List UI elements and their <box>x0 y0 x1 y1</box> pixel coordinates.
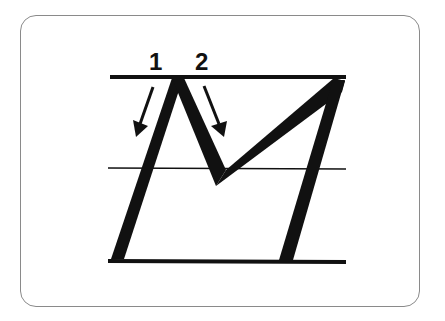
arrow-2-icon <box>204 86 219 124</box>
baseline-guide-line <box>108 261 346 262</box>
arrow-1-icon <box>140 87 153 124</box>
stroke-label-1: 1 <box>149 50 162 74</box>
m-diagonal-down <box>172 78 226 186</box>
stroke-label-2: 2 <box>195 50 208 74</box>
letter-m-guide <box>0 0 445 321</box>
